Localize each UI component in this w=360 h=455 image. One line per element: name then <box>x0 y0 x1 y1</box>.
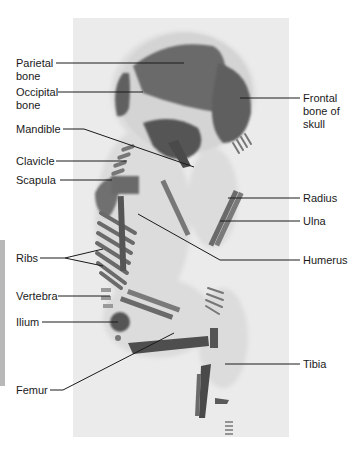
label-clavicle: Clavicle <box>16 155 55 168</box>
fetal-skeleton-photo <box>73 18 289 437</box>
skeleton-illustration <box>73 18 289 437</box>
label-radius: Radius <box>303 192 337 205</box>
label-parietal-bone: Parietal bone <box>16 57 53 83</box>
label-humerus: Humerus <box>303 254 348 267</box>
label-ulna: Ulna <box>303 215 326 228</box>
label-scapula: Scapula <box>16 174 56 187</box>
label-ribs: Ribs <box>16 252 38 265</box>
label-ilium: Ilium <box>16 316 39 329</box>
label-mandible: Mandible <box>16 123 61 136</box>
label-femur: Femur <box>16 384 48 397</box>
page-edge-bar <box>0 240 5 386</box>
label-occipital-bone: Occipital bone <box>16 86 58 112</box>
label-vertebra: Vertebra <box>16 290 58 303</box>
label-tibia: Tibia <box>303 358 326 371</box>
label-frontal-bone: Frontal bone of skull <box>303 92 340 131</box>
